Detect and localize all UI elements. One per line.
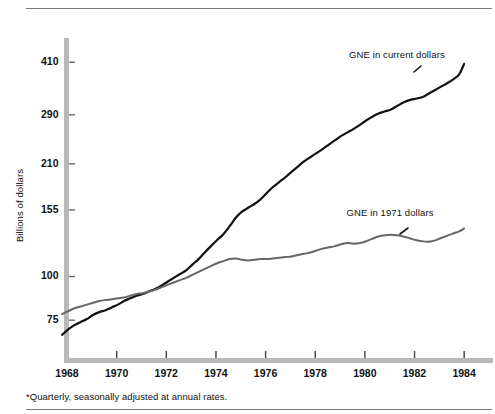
y-axis-tick-label: 290	[19, 108, 59, 120]
y-axis-tick-label: 75	[19, 313, 59, 325]
x-axis-tick-label: 1982	[389, 367, 439, 379]
x-axis-tick-label: 1968	[42, 367, 92, 379]
y-axis-tick	[69, 114, 75, 115]
series-line-1	[62, 64, 464, 335]
y-axis-tick	[69, 320, 75, 321]
x-axis-tick-label: 1972	[141, 367, 191, 379]
x-axis-tick	[414, 351, 416, 358]
x-axis-line	[64, 358, 493, 363]
label-leader-line-1	[414, 66, 421, 72]
y-axis-tick-label: 155	[19, 203, 59, 215]
series-group	[62, 64, 464, 335]
x-axis-tick	[364, 351, 366, 358]
x-axis-tick	[215, 351, 217, 358]
label-leader-line-2	[400, 228, 408, 234]
y-axis-tick-label: 410	[19, 55, 59, 67]
y-axis-tick	[69, 62, 75, 63]
x-axis-tick-label: 1974	[191, 367, 241, 379]
y-axis-tick	[69, 163, 75, 164]
y-axis-line	[64, 38, 69, 363]
chart-figure: Billions of dollars 41029021015510075 19…	[0, 0, 495, 414]
x-axis-tick-label: 1970	[92, 367, 142, 379]
x-axis-tick	[116, 351, 118, 358]
axis-group	[64, 38, 493, 363]
y-axis-tick	[69, 209, 75, 210]
x-axis-tick-label: 1978	[290, 367, 340, 379]
y-axis-tick-label: 210	[19, 157, 59, 169]
x-axis-tick	[315, 351, 317, 358]
chart-footnote: *Quarterly, seasonally adjusted at annua…	[26, 391, 227, 402]
x-axis-tick	[463, 351, 465, 358]
y-axis-tick	[69, 276, 75, 277]
x-axis-tick	[265, 351, 267, 358]
series-label-2: GNE in 1971 dollars	[347, 207, 434, 218]
series-label-1: GNE in current dollars	[349, 49, 445, 60]
y-axis-tick-label: 100	[19, 269, 59, 281]
x-axis-tick-label: 1984	[439, 367, 489, 379]
x-axis-tick-label: 1976	[241, 367, 291, 379]
x-axis-tick-label: 1980	[340, 367, 390, 379]
x-axis-tick	[166, 351, 168, 358]
